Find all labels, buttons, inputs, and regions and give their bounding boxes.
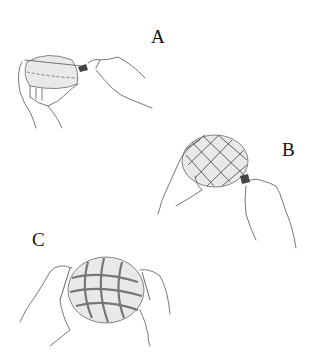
panel-b-drawing <box>158 135 296 248</box>
tool-tip-a <box>78 64 88 72</box>
sphere-a <box>25 55 78 88</box>
panel-c-drawing <box>20 257 170 346</box>
panel-a-drawing <box>18 55 152 128</box>
illustration-canvas <box>0 0 313 363</box>
